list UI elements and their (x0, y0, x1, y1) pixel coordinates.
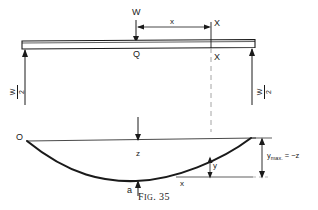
ymax-relation: = −z (283, 151, 300, 160)
label-dimension-x-upper: x (170, 18, 174, 26)
label-center-point-q: Q (133, 50, 140, 59)
label-center-ordinate-z: z (136, 150, 140, 158)
figure-caption: FIG. 35 (138, 191, 170, 202)
label-reaction-left-w-over-2: W 2 (9, 85, 25, 99)
reaction-arrow-right (249, 48, 255, 105)
label-section-x-bottom: X (214, 53, 220, 62)
dimension-y (208, 157, 213, 179)
beam-body (22, 40, 255, 50)
figure-35-container: W x X X Q W 2 W 2 O z a y x ymax. = −z F… (0, 0, 318, 210)
deflection-curve (27, 138, 251, 181)
label-abscissa-x-lower: x (180, 180, 184, 188)
label-lowest-point-a: a (127, 186, 132, 195)
caption-rest: IG (144, 193, 153, 202)
label-load-w: W (132, 8, 141, 17)
reaction-right-numerator: W (256, 85, 263, 99)
figure-drawing (0, 0, 318, 210)
caption-number: . 35 (153, 191, 170, 202)
reaction-left-numerator: W (9, 85, 16, 99)
neutral-axis-reference (27, 138, 256, 141)
reaction-left-denominator: 2 (18, 85, 25, 99)
ymax-subscript: max. (271, 155, 283, 161)
label-section-x-top: X (214, 19, 220, 28)
label-ordinate-y: y (213, 162, 217, 170)
load-arrow-w (133, 20, 139, 43)
load-arrow-lower (135, 117, 141, 141)
reaction-right-denominator: 2 (265, 85, 272, 99)
label-origin-o: O (16, 133, 23, 142)
label-reaction-right-w-over-2: W 2 (256, 85, 272, 99)
label-max-deflection: ymax. = −z (267, 152, 299, 160)
